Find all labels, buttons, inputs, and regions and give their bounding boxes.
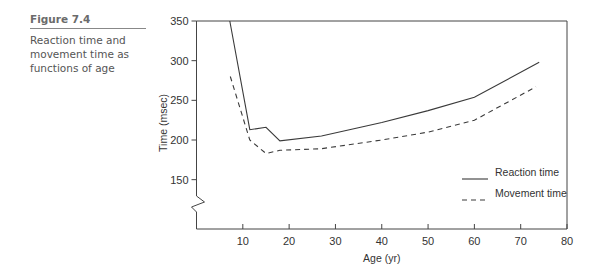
x-tick-label: 70: [515, 235, 527, 247]
x-tick-label: 60: [468, 235, 480, 247]
y-tick-label: 200: [170, 134, 188, 146]
x-tick-label: 40: [376, 235, 388, 247]
series-line-movement-time: [230, 77, 536, 154]
legend-label: Reaction time: [495, 166, 559, 178]
y-tick-label: 150: [170, 174, 188, 186]
y-tick-label: 300: [170, 55, 188, 67]
x-tick-label: 10: [237, 235, 249, 247]
x-axis-label: Age (yr): [363, 252, 400, 264]
x-tick-label: 30: [329, 235, 341, 247]
y-tick-label: 350: [170, 15, 188, 27]
legend-label: Movement time: [495, 187, 567, 199]
y-axis-label: Time (msec): [157, 94, 169, 152]
x-tick-label: 50: [422, 235, 434, 247]
x-tick-label: 80: [561, 235, 573, 247]
line-chart: 1502002503003501020304050607080Age (yr)T…: [0, 0, 593, 269]
y-axis: [192, 21, 205, 229]
series-line-reaction-time: [230, 21, 539, 141]
x-tick-label: 20: [283, 235, 295, 247]
y-tick-label: 250: [170, 94, 188, 106]
